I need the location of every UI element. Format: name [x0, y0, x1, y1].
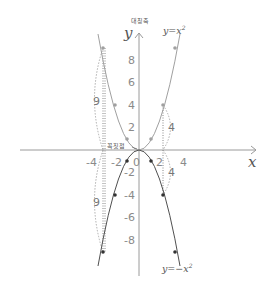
y-tick-4: 4: [128, 99, 135, 112]
x-axis-label: x: [248, 153, 257, 171]
distance-label-left-lower: 9: [93, 196, 100, 209]
x-tick-neg4: -4: [86, 156, 97, 169]
lower-equation-label: y=−x2: [161, 262, 193, 274]
y-tick-neg4: -4: [124, 189, 135, 202]
y-tick-neg8: -8: [124, 234, 135, 247]
diagram-canvas: -4 -2 0 2 4 8 6 4 2 -2 -4 -6 -8 y x 대칭축 …: [0, 0, 271, 290]
upper-equation-label: y=x2: [162, 24, 186, 36]
distance-label-right-upper: 4: [168, 121, 175, 134]
vertex-label: 꼭짓점: [107, 142, 125, 150]
x-tick-4: 4: [180, 156, 187, 169]
y-tick-6: 6: [128, 76, 135, 89]
x-tick-neg2: -2: [111, 156, 122, 169]
y-tick-neg2: -2: [124, 166, 135, 179]
parabola-diagram: -4 -2 0 2 4 8 6 4 2 -2 -4 -6 -8 y x 대칭축 …: [0, 0, 271, 290]
distance-label-right-lower: 4: [168, 166, 175, 179]
y-tick-8: 8: [128, 54, 135, 67]
y-tick-neg6: -6: [124, 211, 135, 224]
y-axis: [135, 33, 143, 276]
distance-label-left-upper: 9: [93, 95, 100, 108]
symmetry-axis-label: 대칭축: [131, 17, 149, 25]
x-tick-2: 2: [156, 156, 163, 169]
y-tick-2: 2: [128, 121, 135, 134]
y-axis-label: y: [123, 24, 133, 42]
